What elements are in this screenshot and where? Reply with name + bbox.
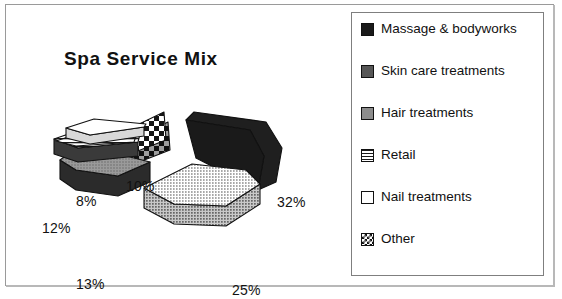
data-label-other: 10% [126,178,155,194]
legend-label-retail: Retail [381,147,416,162]
legend-label-other: Other [381,231,415,246]
pie-chart-graphic [14,86,344,236]
data-label-retail: 12% [42,220,71,236]
data-label-massage: 32% [277,194,306,210]
pie-plot-area: 32% 25% 13% 12% 8% 10% [14,86,344,236]
legend-item-retail: Retail [352,147,543,189]
legend-label-nail: Nail treatments [381,189,472,204]
legend-swatch-checkerboard-icon [361,233,374,246]
legend-swatch-light-dotted-icon [361,65,374,78]
legend-label-massage: Massage & bodyworks [381,21,517,36]
chart-title: Spa Service Mix [64,48,218,70]
legend-label-hair: Hair treatments [381,105,473,120]
legend-swatch-horizontal-lines-icon [361,149,374,162]
legend-swatch-solid-black-icon [361,23,374,36]
chart-screenshot: Spa Service Mix [0,0,562,299]
legend-item-massage: Massage & bodyworks [352,21,543,63]
legend-item-other: Other [352,231,543,273]
legend-item-skincare: Skin care treatments [352,63,543,105]
legend-label-skincare: Skin care treatments [381,63,505,78]
legend-swatch-white-empty-icon [361,191,374,204]
legend-item-nail: Nail treatments [352,189,543,231]
chart-legend: Massage & bodyworks Skin care treatments… [351,12,544,276]
data-label-nail: 8% [76,193,97,209]
figure-caption [8,291,308,299]
legend-swatch-medium-gray-icon [361,107,374,120]
legend-item-hair: Hair treatments [352,105,543,147]
data-label-hair: 13% [76,276,105,292]
